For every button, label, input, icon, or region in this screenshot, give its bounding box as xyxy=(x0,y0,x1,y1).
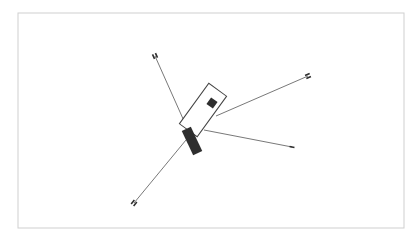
arm-line xyxy=(155,56,184,121)
arm-end-marker-icon xyxy=(153,54,155,59)
arm-lower-left xyxy=(131,140,186,206)
arm-lower-right xyxy=(204,130,294,147)
arm-end-marker-icon xyxy=(290,147,295,148)
arm-line xyxy=(134,140,186,203)
diagram-frame xyxy=(18,13,404,228)
arm-upper-right xyxy=(216,74,311,116)
arm-end-marker-icon xyxy=(131,200,134,204)
arm-line xyxy=(204,130,292,147)
diagram-canvas xyxy=(0,0,415,236)
arm-line xyxy=(216,76,308,116)
arms-group xyxy=(131,53,311,206)
arm-end-marker-icon xyxy=(305,74,310,76)
arm-upper-left xyxy=(153,53,184,121)
